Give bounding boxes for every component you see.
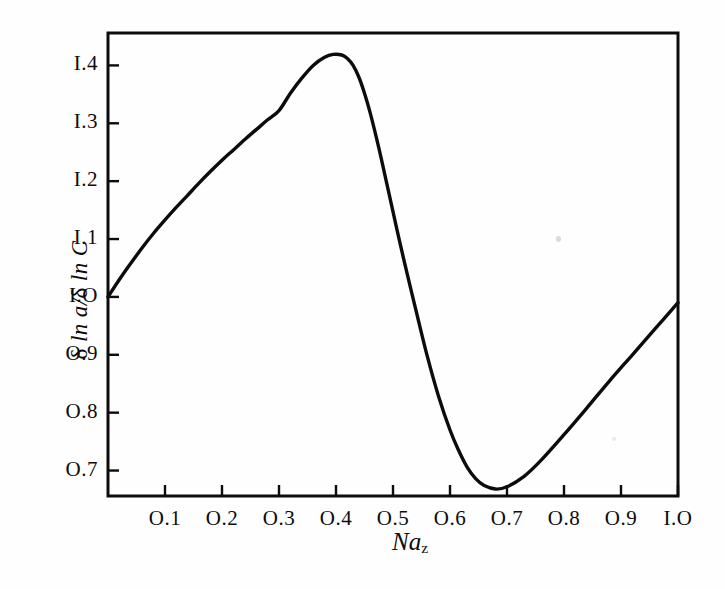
y-tick-label: I.4: [42, 51, 98, 76]
y-tick-label: I.O: [42, 283, 98, 308]
paper-speck: [556, 236, 561, 242]
x-tick-label: O.8: [538, 506, 590, 531]
y-tick-label: I.2: [42, 167, 98, 192]
y-tick-label: I.1: [42, 225, 98, 250]
x-axis-label-subscript: z: [421, 539, 428, 556]
plot-frame: [108, 33, 678, 496]
x-axis-label: Naz: [340, 528, 480, 557]
axis-ticks: [108, 65, 678, 496]
x-tick-label: O.5: [367, 506, 419, 531]
data-curve: [108, 54, 678, 489]
x-axis-label-base: Na: [392, 528, 421, 555]
y-tick-label: O.9: [42, 341, 98, 366]
axes-frame: [108, 33, 678, 496]
x-tick-label: O.7: [481, 506, 533, 531]
x-tick-label: O.4: [310, 506, 362, 531]
paper-speck-2: [612, 437, 616, 441]
data-curve-group: [108, 54, 678, 489]
y-tick-label: O.8: [42, 399, 98, 424]
x-tick-label: O.1: [139, 506, 191, 531]
x-tick-label: O.2: [196, 506, 248, 531]
y-tick-label: O.7: [42, 457, 98, 482]
x-tick-label: O.6: [424, 506, 476, 531]
figure-container: δ ln a/δ ln C Naz O.1O.2O.3O.4O.5O.6O.7O…: [0, 0, 725, 589]
x-tick-label: O.9: [595, 506, 647, 531]
x-tick-label: O.3: [253, 506, 305, 531]
plot-svg: [0, 0, 725, 589]
y-tick-label: I.3: [42, 109, 98, 134]
x-tick-label: I.O: [652, 506, 704, 531]
